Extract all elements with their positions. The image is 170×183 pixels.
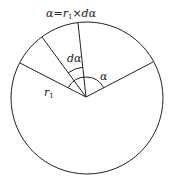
arc-length-formula: α=r1×dα <box>46 7 97 21</box>
outer-circle <box>11 22 163 174</box>
radius-label: r1 <box>44 86 54 100</box>
alpha-label: α <box>100 70 108 83</box>
d-alpha-angle-arc <box>68 67 83 73</box>
d-alpha-label: dα <box>67 52 82 65</box>
alpha-angle-arc <box>68 77 104 88</box>
circle-sector-diagram: α=r1×dα dα α r1 <box>0 0 170 183</box>
